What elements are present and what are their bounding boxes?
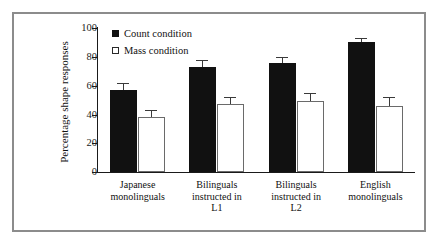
errorbar-mass-bilinguals-l1: [217, 97, 244, 104]
legend-entry-mass-condition: Mass condition: [112, 43, 192, 58]
bar-mass-english-monolinguals[interactable]: [376, 106, 403, 172]
y-tick-label-0-wrap: 0: [52, 167, 97, 177]
chart-legend: Count condition Mass condition: [112, 26, 192, 60]
x-category-line: monolinguals: [332, 191, 418, 203]
y-tick-label-20-wrap: 20: [52, 138, 97, 148]
y-tick-label-100-wrap: 100: [52, 23, 97, 33]
legend-label-count-condition: Count condition: [124, 28, 192, 39]
bar-count-english-monolinguals[interactable]: [348, 42, 375, 172]
y-tick-label-20: 20: [63, 138, 97, 148]
x-category-line: Bilinguals: [253, 179, 339, 191]
errorbar-count-bilinguals-l1: [189, 60, 216, 67]
x-category-label-japanese-monolinguals: Japanese monolinguals: [95, 179, 181, 202]
x-category-line: L1: [174, 202, 260, 214]
y-tick-label-100: 100: [63, 23, 97, 33]
bar-count-japanese-monolinguals[interactable]: [110, 90, 137, 172]
x-category-line: English: [332, 179, 418, 191]
y-tick-label-60: 60: [63, 81, 97, 91]
y-tick-label-80: 80: [63, 52, 97, 62]
x-category-line: Bilinguals: [174, 179, 260, 191]
legend-swatch-open-square-icon: [112, 47, 119, 54]
figure-container: Percentage shape responses 100 80 60 40 …: [0, 0, 444, 252]
x-category-line: monolinguals: [95, 191, 181, 203]
bar-count-bilinguals-l2[interactable]: [269, 63, 296, 172]
bar-count-bilinguals-l1[interactable]: [189, 67, 216, 172]
errorbar-count-bilinguals-l2: [269, 57, 296, 63]
x-category-line: instructed in: [253, 191, 339, 203]
y-tick-label-60-wrap: 60: [52, 81, 97, 91]
y-tick-label-0: 0: [63, 167, 97, 177]
errorbar-count-english-monolinguals: [348, 38, 375, 42]
errorbar-mass-english-monolinguals: [376, 97, 403, 106]
x-category-line: instructed in: [174, 191, 260, 203]
y-tick-label-40-wrap: 40: [52, 110, 97, 120]
legend-label-mass-condition: Mass condition: [124, 45, 188, 56]
x-category-label-bilinguals-l1: Bilinguals instructed in L1: [174, 179, 260, 214]
errorbar-mass-bilinguals-l2: [297, 93, 324, 102]
errorbar-mass-japanese-monolinguals: [138, 110, 165, 117]
x-axis-line: [97, 172, 415, 173]
legend-swatch-filled-square-icon: [112, 30, 119, 37]
x-category-line: Japanese: [95, 179, 181, 191]
errorbar-count-japanese-monolinguals: [110, 83, 137, 90]
x-category-label-bilinguals-l2: Bilinguals instructed in L2: [253, 179, 339, 214]
y-tick-label-40: 40: [63, 110, 97, 120]
legend-entry-count-condition: Count condition: [112, 26, 192, 41]
y-axis-title: Percentage shape responses: [58, 22, 70, 182]
y-axis-line: [97, 27, 98, 173]
x-category-label-english-monolinguals: English monolinguals: [332, 179, 418, 202]
x-category-line: L2: [253, 202, 339, 214]
plot-area: Percentage shape responses 100 80 60 40 …: [0, 0, 444, 252]
bar-mass-bilinguals-l1[interactable]: [217, 104, 244, 172]
bar-mass-bilinguals-l2[interactable]: [297, 101, 324, 172]
y-tick-label-80-wrap: 80: [52, 52, 97, 62]
bar-mass-japanese-monolinguals[interactable]: [138, 117, 165, 172]
